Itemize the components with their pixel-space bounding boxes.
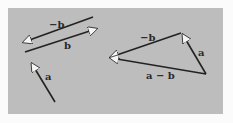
label-a-minus-b: a − b [146, 70, 175, 81]
label-b-left: b [64, 40, 71, 51]
vector-b-left [25, 29, 96, 52]
vector-a-left [32, 64, 55, 102]
left-figure: −b b a [24, 17, 96, 102]
label-a-right: a [198, 47, 205, 58]
label-a-left: a [45, 71, 52, 82]
label-neg-b-left: −b [49, 19, 64, 30]
vector-diagram: −b b a −b a a − b [0, 0, 233, 123]
right-figure: −b a a − b [111, 32, 206, 81]
label-neg-b-right: −b [140, 32, 155, 43]
